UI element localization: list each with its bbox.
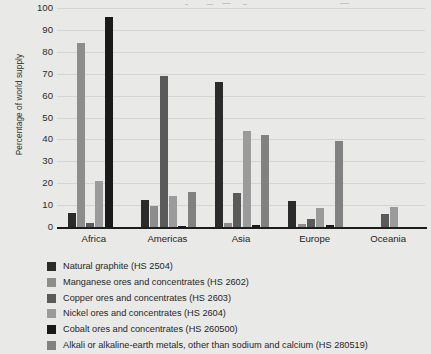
bar	[233, 193, 241, 227]
bar	[188, 192, 196, 227]
x-axis-category-label: Europe	[278, 233, 352, 244]
bar	[77, 43, 85, 227]
legend-label: Alkali or alkaline-earth metals, other t…	[63, 341, 368, 350]
bar	[307, 219, 315, 227]
legend-label: Copper ores and concentrates (HS 2603)	[63, 294, 231, 303]
bar	[169, 196, 177, 227]
y-axis-tick: 30	[22, 157, 53, 167]
y-axis-tick: 20	[22, 178, 53, 188]
bar	[215, 82, 223, 227]
legend-label: Nickel ores and concentrates (HS 2604)	[63, 309, 226, 318]
bar	[335, 141, 343, 228]
bar	[243, 131, 251, 227]
y-axis-tick: 60	[22, 91, 53, 101]
bar	[141, 200, 149, 227]
legend-item[interactable]: Cobalt ores and concentrates (HS 260500)	[47, 322, 431, 338]
y-axis-tick: 70	[22, 69, 53, 79]
legend-swatch-icon	[47, 278, 56, 287]
legend-swatch-icon	[47, 341, 56, 350]
y-axis-tick: 10	[22, 200, 53, 210]
legend-item[interactable]: Natural graphite (HS 2504)	[47, 259, 431, 275]
chart-legend: Natural graphite (HS 2504)Manganese ores…	[47, 259, 431, 353]
legend-swatch-icon	[47, 294, 56, 303]
bar	[390, 207, 398, 227]
bar	[150, 206, 158, 227]
bar	[105, 17, 113, 227]
legend-swatch-icon	[47, 325, 56, 334]
x-axis-category-label: Oceania	[351, 233, 425, 244]
chart-screenshot: Percentage of world supply 0102030405060…	[0, 0, 431, 354]
bar-group	[141, 8, 196, 227]
legend-swatch-icon	[47, 262, 56, 271]
y-axis-tick: 0	[22, 222, 53, 232]
y-axis-tick-labels: 0102030405060708090100	[22, 8, 53, 227]
bar-chart: Percentage of world supply 0102030405060…	[0, 0, 431, 250]
bar-group	[215, 8, 270, 227]
bar	[288, 201, 296, 227]
x-axis-line	[57, 227, 427, 229]
legend-label: Cobalt ores and concentrates (HS 260500)	[63, 325, 238, 334]
bar	[316, 208, 324, 227]
plot-area	[57, 8, 425, 227]
bar	[160, 76, 168, 227]
bar-group	[288, 8, 343, 227]
bar	[261, 135, 269, 227]
legend-label: Manganese ores and concentrates (HS 2602…	[63, 278, 249, 287]
legend-swatch-icon	[47, 309, 56, 318]
bar	[68, 213, 76, 227]
x-axis-category-label: Americas	[131, 233, 205, 244]
bar-group	[68, 8, 123, 227]
bar	[95, 181, 103, 227]
y-axis-tick: 90	[22, 25, 53, 35]
bar-group	[362, 8, 417, 227]
y-axis-tick: 100	[22, 3, 53, 13]
legend-item[interactable]: Alkali or alkaline-earth metals, other t…	[47, 337, 431, 353]
legend-item[interactable]: Manganese ores and concentrates (HS 2602…	[47, 275, 431, 291]
legend-label: Natural graphite (HS 2504)	[63, 262, 173, 271]
legend-item[interactable]: Copper ores and concentrates (HS 2603)	[47, 290, 431, 306]
x-axis-category-label: Africa	[57, 233, 131, 244]
x-axis-category-label: Asia	[204, 233, 278, 244]
bar	[381, 214, 389, 227]
legend-item[interactable]: Nickel ores and concentrates (HS 2604)	[47, 306, 431, 322]
y-axis-tick: 40	[22, 135, 53, 145]
y-axis-tick: 80	[22, 47, 53, 57]
y-axis-tick: 50	[22, 113, 53, 123]
